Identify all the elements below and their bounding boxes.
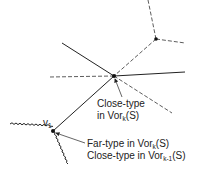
vertex-upper [154,37,158,41]
solid-edge-center-upper-left [62,43,114,76]
v1-annotation-line2: Close-type in Vork-1(S) [87,150,186,162]
arrow-to-center [115,79,122,97]
center-annotation-line2: in Vork(S) [97,110,139,122]
voronoi-diagram: v1 Close-type in Vork(S) Far-type in Vor… [0,0,197,176]
v1-annotation-line1: Far-type in Vork(S) [87,138,169,150]
dashed-edge-upper-center [114,39,156,76]
dashed-edge-upper-right [156,39,185,43]
vertex-v1 [51,129,55,133]
wavy-edge-v1-down [53,131,68,164]
v1-label: v1 [43,117,52,129]
solid-edge-center-right [114,72,185,76]
dashed-edge-upper-up [148,0,156,39]
vertex-center [112,74,116,78]
dashed-edge-center-left [50,76,114,77]
arrow-to-v1 [56,133,85,143]
center-annotation-line1: Close-type [97,98,145,109]
